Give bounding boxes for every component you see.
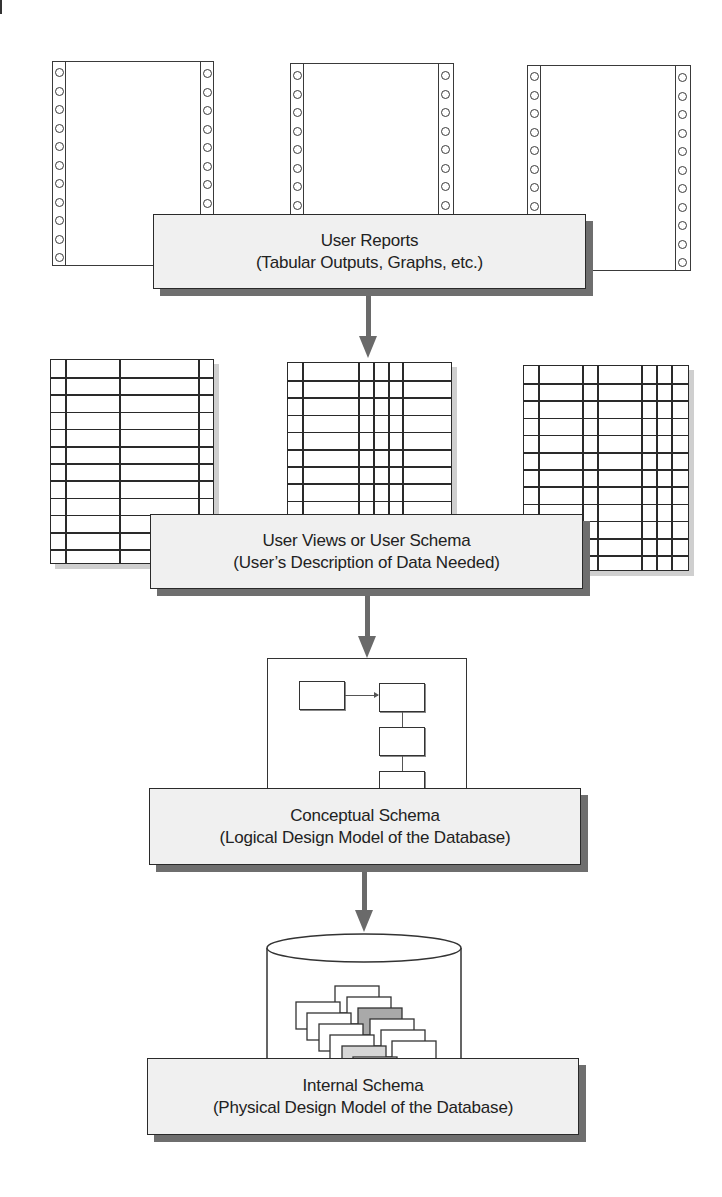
tractor-hole-icon [293,182,302,191]
tractor-hole-icon [441,201,450,210]
tractor-hole-icon [293,201,302,210]
report-page-2 [290,63,454,218]
tractor-hole-icon [203,180,212,189]
user-reports-box: User Reports (Tabular Outputs, Graphs, e… [153,214,586,289]
down-arrow-icon [355,596,379,660]
table-row-line [524,504,688,506]
tractor-hole-icon [441,90,450,99]
tractor-hole-icon [530,202,539,211]
tractor-hole-icon [678,147,687,156]
tractor-hole-icon [441,145,450,154]
table-row-line [288,415,451,417]
tractor-hole-icon [203,162,212,171]
tractor-hole-icon [55,198,64,207]
entity-box [299,681,345,710]
table-column-line [65,360,67,563]
conceptual-schema-subtitle: (Logical Design Model of the Database) [150,827,580,849]
tractor-hole-icon [441,71,450,80]
table-row-line [51,463,213,465]
tractor-hole-icon [441,108,450,117]
internal-schema-title: Internal Schema [148,1075,578,1097]
tractor-hole-icon [293,108,302,117]
tractor-strip-left [52,62,66,265]
table-row-line [288,466,451,468]
tractor-hole-icon [678,203,687,212]
user-views-title: User Views or User Schema [151,530,582,552]
internal-schema-box: Internal Schema (Physical Design Model o… [147,1058,579,1135]
user-views-subtitle: (User’s Description of Data Needed) [151,552,582,574]
table-column-line [597,366,599,570]
table-row-line [51,377,213,379]
internal-schema-subtitle: (Physical Design Model of the Database) [148,1097,578,1119]
tractor-hole-icon [530,165,539,174]
table-row-line [288,501,451,503]
user-reports-title: User Reports [154,230,585,252]
entity-box [379,727,425,756]
tractor-hole-icon [530,91,539,100]
table-column-line [671,366,673,570]
tractor-strip-right [438,64,454,217]
table-row-line [524,469,688,471]
tractor-hole-icon [678,221,687,230]
tractor-hole-icon [678,184,687,193]
tractor-hole-icon [55,105,64,114]
tractor-hole-icon [293,127,302,136]
tractor-hole-icon [203,199,212,208]
tractor-hole-icon [55,87,64,96]
table-row-line [288,483,451,485]
tractor-hole-icon [678,240,687,249]
page-corner-mark [0,0,2,14]
tractor-hole-icon [203,143,212,152]
table-column-line [402,363,404,521]
down-arrow-icon [356,296,380,360]
tractor-hole-icon [678,110,687,119]
tractor-hole-icon [678,129,687,138]
tractor-hole-icon [441,127,450,136]
conceptual-model-sheet [267,658,467,798]
tractor-hole-icon [203,88,212,97]
relationship-line [402,756,403,772]
tractor-hole-icon [678,166,687,175]
table-column-line [302,363,304,521]
tractor-hole-icon [678,258,687,267]
table-row-line [51,498,213,500]
tractor-hole-icon [293,164,302,173]
tractor-hole-icon [55,142,64,151]
table-row-line [524,400,688,402]
table-column-line [656,366,658,570]
tractor-hole-icon [293,71,302,80]
tractor-hole-icon [203,106,212,115]
user-reports-subtitle: (Tabular Outputs, Graphs, etc.) [154,252,585,274]
table-row-line [524,452,688,454]
table-row-line [51,394,213,396]
tractor-hole-icon [55,216,64,225]
tractor-hole-icon [55,161,64,170]
tractor-hole-icon [678,73,687,82]
tractor-hole-icon [55,253,64,262]
tractor-hole-icon [203,125,212,134]
table-row-line [288,449,451,451]
table-row-line [51,412,213,414]
tractor-hole-icon [441,164,450,173]
table-row-line [524,435,688,437]
table-column-line [373,363,375,521]
down-arrow-icon [352,872,376,934]
table-row-line [51,446,213,448]
tractor-hole-icon [530,146,539,155]
table-row-line [288,432,451,434]
tractor-hole-icon [530,183,539,192]
table-row-line [51,480,213,482]
tractor-hole-icon [55,68,64,77]
conceptual-schema-box: Conceptual Schema (Logical Design Model … [149,788,581,865]
tractor-hole-icon [55,179,64,188]
tractor-hole-icon [530,109,539,118]
user-view-table-2 [287,362,452,522]
tractor-hole-icon [678,92,687,101]
relationship-line [402,712,403,728]
table-column-line [358,363,360,521]
table-row-line [524,486,688,488]
table-column-line [388,363,390,521]
tractor-hole-icon [55,235,64,244]
tractor-strip-right [675,66,691,270]
database-cylinder-icon [262,928,468,1062]
